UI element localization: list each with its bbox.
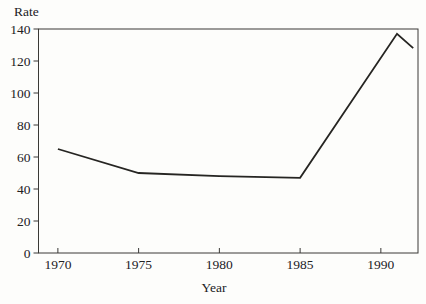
x-tick-label: 1970 (44, 257, 71, 272)
x-axis-tick-labels: 19701975198019851990 (44, 257, 394, 272)
y-tick-label: 100 (10, 86, 31, 101)
x-tick-label: 1990 (367, 257, 394, 272)
y-tick-label: 20 (17, 214, 31, 229)
y-tick-label: 80 (17, 118, 31, 133)
y-tick-label: 60 (17, 150, 31, 165)
x-tick-label: 1980 (206, 257, 233, 272)
y-tick-label: 120 (10, 54, 31, 69)
data-line-rate (58, 34, 413, 178)
y-axis-title: Rate (14, 4, 39, 19)
x-tick-label: 1985 (287, 257, 314, 272)
x-tick-label: 1975 (125, 257, 152, 272)
x-axis-ticks (58, 248, 381, 253)
line-chart: Rate 020406080100120140 1970197519801985… (0, 0, 426, 304)
y-tick-label: 140 (10, 22, 31, 37)
plot-frame (39, 29, 419, 253)
y-axis-ticks (34, 29, 39, 253)
y-axis-tick-labels: 020406080100120140 (10, 22, 31, 261)
y-tick-label: 40 (17, 182, 31, 197)
x-axis-title: Year (202, 280, 227, 295)
chart-canvas: Rate 020406080100120140 1970197519801985… (0, 0, 426, 304)
y-tick-label: 0 (24, 246, 31, 261)
